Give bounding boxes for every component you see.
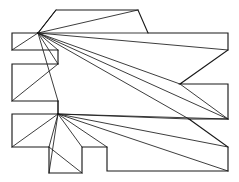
upper-fan-apex [37, 32, 39, 34]
polygon-triangulation-diagram [0, 0, 239, 182]
polygon-outline [12, 10, 228, 173]
lower-fan-apex [57, 113, 59, 115]
figure-canvas [0, 0, 239, 182]
